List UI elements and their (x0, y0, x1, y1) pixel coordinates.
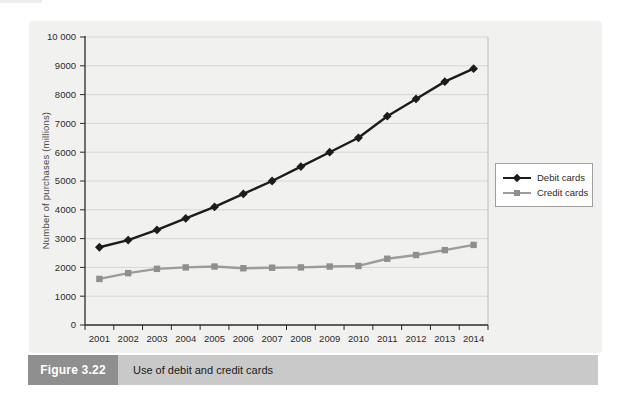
data-point (183, 264, 189, 270)
data-point (96, 276, 102, 282)
y-tick-label: 8000 (55, 89, 76, 100)
credit-cards-swatch (503, 188, 531, 198)
debit-cards-swatch (503, 173, 531, 183)
legend-entry-debit-cards: Debit cards (503, 170, 586, 185)
figure-caption-bar: Figure 3.22 Use of debit and credit card… (28, 355, 598, 385)
x-tick-label: 2010 (348, 333, 369, 344)
square-marker-icon (514, 190, 520, 196)
data-point (442, 247, 448, 253)
legend-label-credit-cards: Credit cards (537, 187, 588, 198)
data-point (298, 264, 304, 270)
page-artifact (0, 0, 42, 3)
legend-entry-credit-cards: Credit cards (503, 185, 586, 200)
x-tick-label: 2008 (290, 333, 311, 344)
y-tick-label: 10 000 (47, 31, 76, 42)
data-point (326, 263, 332, 269)
x-tick-label: 2004 (175, 333, 196, 344)
x-tick-label: 2014 (463, 333, 484, 344)
diamond-marker-icon (513, 173, 521, 181)
x-tick-label: 2012 (405, 333, 426, 344)
y-tick-label: 5000 (55, 175, 76, 186)
y-tick-label: 1000 (55, 291, 76, 302)
legend-label-debit-cards: Debit cards (537, 172, 585, 183)
y-tick-label: 2000 (55, 262, 76, 273)
y-tick-label: 6000 (55, 147, 76, 158)
data-point (355, 263, 361, 269)
data-point (384, 256, 390, 262)
series-line (99, 69, 473, 248)
data-point (413, 252, 419, 258)
chart-panel: 010002000300040005000600070008000900010 … (29, 21, 602, 353)
data-point (154, 266, 160, 272)
y-tick-label: 4000 (55, 204, 76, 215)
data-point (296, 162, 305, 171)
figure-caption-text: Use of debit and credit cards (118, 355, 273, 385)
y-axis-title: Number of purchases (millions) (40, 101, 51, 261)
x-tick-label: 2011 (377, 333, 397, 344)
x-tick-label: 2009 (319, 333, 340, 344)
x-tick-label: 2003 (146, 333, 167, 344)
data-point (95, 243, 104, 252)
chart-legend: Debit cards Credit cards (495, 163, 593, 207)
x-tick-label: 2001 (89, 333, 110, 344)
data-point (153, 226, 162, 235)
data-point (240, 265, 246, 271)
x-tick-label: 2007 (262, 333, 283, 344)
data-point (268, 177, 277, 186)
y-tick-label: 3000 (55, 233, 76, 244)
series-line (99, 245, 473, 279)
page: 010002000300040005000600070008000900010 … (0, 0, 627, 408)
data-point (239, 190, 248, 199)
data-point (470, 242, 476, 248)
data-point (125, 270, 131, 276)
credit-cards-series (96, 242, 477, 282)
y-tick-label: 9000 (55, 60, 76, 71)
debit-cards-series (95, 64, 478, 251)
data-point (269, 264, 275, 270)
x-tick-label: 2005 (204, 333, 225, 344)
y-tick-label: 7000 (55, 118, 76, 129)
y-tick-label: 0 (71, 319, 76, 330)
data-point (211, 263, 217, 269)
data-point (124, 236, 133, 245)
data-point (181, 214, 190, 223)
figure-number-label: Figure 3.22 (28, 355, 118, 385)
x-tick-label: 2002 (118, 333, 139, 344)
x-tick-label: 2013 (434, 333, 455, 344)
x-tick-label: 2006 (233, 333, 254, 344)
data-point (325, 148, 334, 157)
